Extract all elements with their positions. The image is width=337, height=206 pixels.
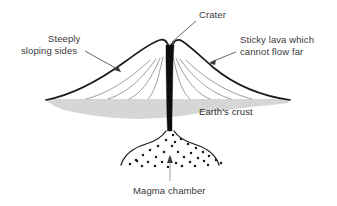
magma-arrow-head (167, 155, 173, 163)
magma-dot (155, 156, 158, 159)
volcano-cross-section-svg: Crater Steeply sloping sides Sticky lava… (0, 0, 337, 206)
layer-line-right-2 (180, 59, 231, 99)
label-steeply-line1: Steeply (48, 33, 81, 44)
magma-dot (189, 161, 192, 164)
magma-dot (208, 155, 211, 158)
volcanic-vent-conduit (166, 45, 174, 131)
magma-dot (187, 143, 190, 146)
magma-dot (129, 163, 132, 166)
magma-dot (171, 145, 174, 148)
magma-dot (167, 166, 170, 169)
magma-dot (177, 151, 180, 154)
magma-dot (181, 165, 184, 168)
magma-dot (157, 145, 160, 148)
magma-dot (174, 141, 177, 144)
label-steeply-line2: sloping sides (21, 45, 77, 56)
magma-dot (141, 165, 144, 168)
steeply-arrow-head (114, 66, 121, 72)
magma-dot (163, 151, 166, 154)
magma-dot (202, 151, 205, 154)
magma-dot (207, 164, 210, 167)
layer-line-right-4 (173, 57, 190, 99)
magma-dot (190, 152, 193, 155)
volcano-diagram: Crater Steeply sloping sides Sticky lava… (0, 0, 337, 206)
magma-dot (161, 161, 164, 164)
layer-line-right-3 (176, 58, 210, 99)
magma-dot (136, 160, 139, 163)
magma-dot (195, 147, 198, 150)
layer-line-left-2 (108, 59, 156, 99)
layer-line-right-1 (186, 60, 252, 99)
steeply-leader-line (85, 51, 119, 70)
magma-dot (183, 156, 186, 159)
magma-dot (142, 154, 145, 157)
vent-shape (166, 45, 174, 131)
label-earths-crust: Earth's crust (199, 106, 253, 117)
magma-dot (175, 162, 178, 165)
sticky-lava-leader-line (211, 52, 236, 62)
magma-dot (220, 162, 223, 165)
crater-leader-line (172, 21, 196, 42)
magma-dot (172, 134, 175, 137)
magma-dot (194, 165, 197, 168)
label-sticky-lava-line2: cannot flow far (240, 46, 303, 57)
magma-dot (149, 149, 152, 152)
chamber-outline-left (121, 131, 166, 165)
magma-dot (203, 160, 206, 163)
magma-dot (165, 139, 168, 142)
magma-dot (147, 161, 150, 164)
label-magma-chamber: Magma chamber (133, 185, 206, 196)
magma-dot (154, 165, 157, 168)
label-sticky-lava-line1: Sticky lava which (240, 34, 314, 45)
magma-dot (197, 157, 200, 160)
magma-dot (215, 159, 218, 162)
label-crater: Crater (199, 9, 226, 20)
layer-line-left-3 (129, 58, 160, 99)
magma-dot (180, 138, 183, 141)
